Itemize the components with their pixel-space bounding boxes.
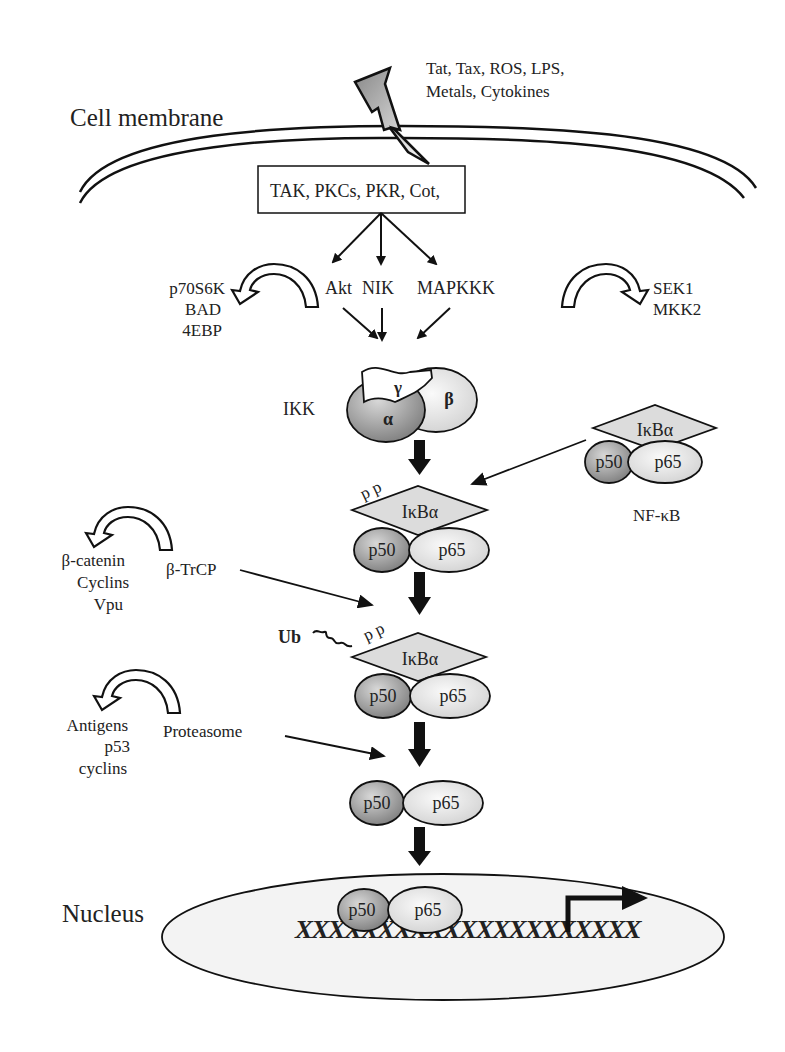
ikk-complex: α γ β [347, 368, 477, 442]
svg-text:MKK2: MKK2 [653, 300, 701, 319]
svg-text:p50: p50 [369, 540, 396, 560]
curved-arrow-icon [94, 670, 180, 713]
ikk-phosphorylation-arrow [472, 440, 586, 484]
kinases-to-ikk-arrows [343, 308, 450, 340]
proteasome-arrow [285, 736, 384, 756]
svg-text:p65: p65 [655, 452, 682, 472]
nfkb-inactive-complex: IκBα p50 p65 [585, 405, 716, 483]
svg-text:p65: p65 [440, 686, 467, 706]
svg-text:SEK1: SEK1 [653, 279, 694, 298]
btrcp-arrow [240, 570, 372, 605]
svg-text:p50: p50 [370, 686, 397, 706]
proteasome-targets: Antigens p53 cyclins [67, 716, 130, 778]
upstream-kinases: Akt NIK MAPKKK [325, 278, 495, 298]
curved-arrow-icon [232, 264, 318, 307]
ubiquitin-chain-icon [313, 631, 352, 646]
svg-text:Antigens: Antigens [67, 716, 128, 735]
svg-text:p p: p p [360, 619, 387, 645]
thick-arrow-icon [408, 572, 431, 615]
svg-text:p65: p65 [415, 900, 442, 920]
ikk-label: IKK [283, 399, 315, 419]
stimulus-bolt-icon [355, 68, 429, 164]
svg-text:NIK: NIK [362, 278, 394, 298]
svg-text:Tat, Tax, ROS, LPS,: Tat, Tax, ROS, LPS, [426, 59, 565, 78]
svg-text:p50: p50 [596, 452, 623, 472]
svg-text:γ: γ [393, 378, 402, 397]
cell-membrane-label: Cell membrane [70, 104, 223, 131]
thick-arrow-icon [408, 440, 431, 475]
svg-text:4EBP: 4EBP [182, 321, 222, 340]
svg-text:Metals, Cytokines: Metals, Cytokines [426, 82, 550, 101]
curved-arrow-icon [562, 264, 648, 307]
mapkkk-targets: SEK1 MKK2 [653, 279, 701, 319]
nfkb-pathway-diagram: Tat, Tax, ROS, LPS, Metals, Cytokines Ce… [0, 0, 785, 1052]
svg-text:p50: p50 [349, 900, 376, 920]
svg-text:p70S6K: p70S6K [169, 279, 225, 298]
curved-arrow-icon [86, 507, 172, 550]
proteasome-label: Proteasome [163, 722, 242, 741]
stimuli-label: Tat, Tax, ROS, LPS, Metals, Cytokines [426, 59, 565, 101]
thick-arrow-icon [408, 722, 431, 767]
svg-text:Cyclins: Cyclins [77, 573, 129, 592]
btrcp-label: β-TrCP [166, 560, 217, 579]
svg-text:p53: p53 [105, 737, 131, 756]
nucleus-label: Nucleus [62, 900, 144, 927]
svg-text:Akt: Akt [325, 278, 352, 298]
svg-text:β-catenin: β-catenin [62, 551, 126, 570]
svg-text:p65: p65 [433, 793, 460, 813]
svg-text:IκBα: IκBα [402, 502, 439, 522]
nfkb-bound-dimer: p50 p65 [338, 887, 462, 933]
box-to-kinases-arrows [333, 213, 436, 264]
akt-targets: p70S6K BAD 4EBP [169, 279, 225, 340]
svg-text:cyclins: cyclins [79, 759, 127, 778]
phospho-ikba-complex: p p IκBα p50 p65 [352, 477, 489, 572]
nfkb-active-dimer: p50 p65 [350, 781, 483, 825]
svg-text:IκBα: IκBα [402, 649, 439, 669]
svg-text:TAK, PKCs, PKR, Cot,: TAK, PKCs, PKR, Cot, [270, 181, 440, 201]
nfkb-label: NF-κB [633, 506, 680, 525]
svg-text:β: β [444, 389, 453, 409]
thick-arrow-icon [408, 827, 431, 866]
svg-text:BAD: BAD [185, 300, 221, 319]
kinase-box: TAK, PKCs, PKR, Cot, [258, 166, 465, 213]
ub-ikba-complex: p p IκBα p50 p65 [352, 619, 490, 718]
btrcp-targets: β-catenin Cyclins Vpu [62, 551, 129, 614]
svg-text:p65: p65 [439, 540, 466, 560]
svg-text:IκBα: IκBα [637, 420, 674, 440]
svg-text:Vpu: Vpu [94, 595, 124, 614]
ub-label: Ub [278, 627, 301, 647]
svg-text:α: α [383, 409, 393, 429]
svg-text:MAPKKK: MAPKKK [417, 278, 495, 298]
svg-text:p50: p50 [364, 793, 391, 813]
